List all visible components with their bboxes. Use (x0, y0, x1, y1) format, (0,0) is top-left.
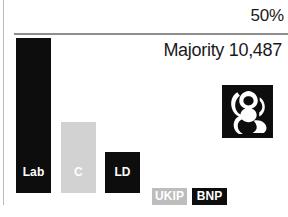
bar-label-bnp: BNP (192, 188, 227, 205)
baseline-padding (0, 205, 288, 217)
bar-label-ukip: UKIP (152, 188, 187, 205)
bar-label-c: C (61, 166, 96, 179)
bar-label-ld: LD (105, 166, 140, 179)
election-bar-chart: 50% Majority 10,487 Lab C LD UKIP BNP (0, 0, 288, 217)
bar-label-lab: Lab (16, 166, 51, 179)
bar-c: C (61, 122, 96, 193)
bar-ld: LD (105, 152, 140, 193)
plot-area: Lab C LD UKIP BNP (0, 0, 288, 205)
bar-lab: Lab (16, 38, 51, 193)
